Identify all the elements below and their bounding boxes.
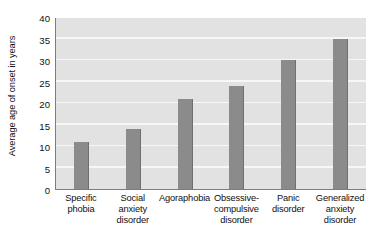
x-axis-tick-labels: SpecificphobiaSocialanxietydisorderAgora… xyxy=(55,192,366,245)
x-axis-tick-label-line: Specific xyxy=(55,193,107,204)
bar-slot xyxy=(263,18,315,189)
bar-slot xyxy=(211,18,263,189)
y-axis-tick-label: 40 xyxy=(39,13,50,24)
x-axis-tick-label-line: anxiety xyxy=(107,204,159,215)
bar[interactable] xyxy=(333,39,348,190)
x-axis-tick-label: Panicdisorder xyxy=(262,192,314,245)
x-axis-tick-label-line: disorder xyxy=(314,215,366,226)
bar[interactable] xyxy=(178,99,193,189)
y-axis-tick-label: 10 xyxy=(39,142,50,153)
bar-chart-figure: Average age of onset in years 4035302520… xyxy=(0,0,378,245)
bar[interactable] xyxy=(229,86,244,189)
bar-slot xyxy=(159,18,211,189)
x-axis-tick-label-line: anxiety xyxy=(314,204,366,215)
bar[interactable] xyxy=(74,142,89,189)
x-axis-tick-label-line: compulsive xyxy=(210,204,262,215)
bar[interactable] xyxy=(281,60,296,189)
bars-layer xyxy=(56,18,366,189)
x-axis-tick-label-line: Panic xyxy=(262,193,314,204)
x-axis-tick-label-line: phobia xyxy=(55,204,107,215)
bar[interactable] xyxy=(126,129,141,189)
x-axis-tick-label-line: Agoraphobia xyxy=(159,193,211,204)
x-axis-tick-label-line: disorder xyxy=(262,204,314,215)
y-axis-tick-label: 15 xyxy=(39,120,50,131)
x-axis-tick-label-line: disorder xyxy=(210,215,262,226)
y-axis-tick-label: 25 xyxy=(39,77,50,88)
x-axis-tick-label-line: Social xyxy=(107,193,159,204)
x-axis-tick-label-line: Generalized xyxy=(314,193,366,204)
y-axis-tick-label: 35 xyxy=(39,34,50,45)
y-axis-tick-label: 30 xyxy=(39,56,50,67)
x-axis-tick-label-line: Obsessive- xyxy=(210,193,262,204)
bar-slot xyxy=(108,18,160,189)
y-axis-tick-label: 5 xyxy=(45,163,50,174)
x-axis-tick-label: Obsessive-compulsivedisorder xyxy=(210,192,262,245)
x-axis-tick-label: Agoraphobia xyxy=(159,192,211,245)
y-axis-title-text: Average age of onset in years xyxy=(7,36,17,156)
x-axis-tick-label-line: disorder xyxy=(107,215,159,226)
bar-slot xyxy=(56,18,108,189)
x-axis-tick-label: Generalizedanxietydisorder xyxy=(314,192,366,245)
y-axis-title: Average age of onset in years xyxy=(0,0,24,192)
plot-area xyxy=(55,18,366,190)
y-axis-tick-label: 20 xyxy=(39,99,50,110)
y-axis-tick-labels: 4035302520151050 xyxy=(24,0,54,245)
bar-slot xyxy=(314,18,366,189)
y-axis-tick-label: 0 xyxy=(45,185,50,196)
x-axis-tick-label: Socialanxietydisorder xyxy=(107,192,159,245)
x-axis-tick-label: Specificphobia xyxy=(55,192,107,245)
